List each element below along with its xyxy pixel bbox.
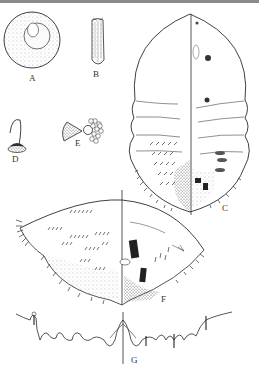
panel-g-anal-lobes bbox=[16, 312, 232, 364]
panel-b-crawler bbox=[92, 18, 104, 64]
panel-d-detail bbox=[8, 120, 26, 153]
panel-a-egg bbox=[4, 12, 60, 68]
panel-e-detail bbox=[63, 119, 104, 144]
label-a: A bbox=[29, 74, 36, 83]
panel-c-adult-female bbox=[129, 14, 249, 215]
label-d: D bbox=[12, 155, 19, 164]
label-g: G bbox=[131, 356, 138, 365]
label-f: F bbox=[161, 295, 166, 304]
illustration-plate bbox=[0, 0, 259, 370]
label-c: C bbox=[222, 204, 228, 213]
label-b: B bbox=[93, 70, 99, 79]
label-e: E bbox=[75, 139, 81, 148]
